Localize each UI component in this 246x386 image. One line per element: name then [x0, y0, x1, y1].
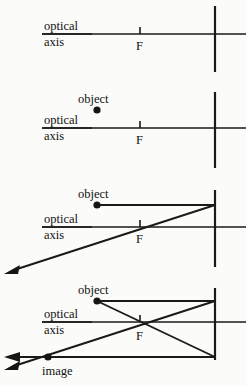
image-label: image: [42, 364, 73, 378]
optical-label: optical: [44, 113, 79, 127]
panel-3: optical axis F object: [4, 187, 246, 274]
optical-label: optical: [44, 212, 79, 226]
focal-point-label: F: [136, 329, 143, 343]
focal-ray-incident: [97, 301, 215, 357]
focal-point-label: F: [136, 39, 143, 53]
panel-4: optical axis F object image: [4, 283, 246, 378]
object-point-dot: [93, 201, 100, 208]
object-label: object: [78, 187, 109, 201]
object-label: object: [78, 283, 109, 297]
ray-diagram-figure: optical axis F optical axis F object opt: [0, 0, 246, 386]
axis-label: axis: [44, 228, 64, 242]
object-point-dot: [93, 106, 100, 113]
optical-label: optical: [44, 19, 79, 33]
object-label: object: [78, 92, 109, 106]
focal-point-label: F: [136, 232, 143, 246]
focal-point-label: F: [136, 133, 143, 147]
axis-label: axis: [44, 35, 64, 49]
image-point-dot: [44, 353, 51, 360]
panel-2: optical axis F object: [42, 92, 246, 168]
ray-arrowhead: [4, 352, 20, 362]
panel-1: optical axis F: [42, 6, 246, 72]
axis-label: axis: [44, 129, 64, 143]
object-point-dot: [93, 297, 100, 304]
axis-label: axis: [44, 323, 64, 337]
optical-label: optical: [44, 307, 79, 321]
ray-diagram-canvas: optical axis F optical axis F object opt: [0, 0, 246, 386]
ray-arrowhead: [4, 361, 20, 370]
ray-arrowhead: [4, 265, 20, 274]
